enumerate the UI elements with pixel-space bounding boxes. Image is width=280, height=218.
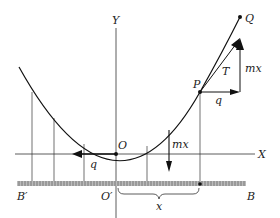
origin-label: O <box>118 139 127 152</box>
B-label: B <box>246 190 255 203</box>
point-on-bar <box>198 182 202 186</box>
Q-label: Q <box>245 12 254 25</box>
catenary-diagram: Y X O q mx P q mx T Q B′ O′ B x <box>0 0 280 218</box>
T-label: T <box>222 65 231 78</box>
tension-line <box>200 44 236 92</box>
q-top-label: q <box>215 94 222 107</box>
mx-top-label: mx <box>245 62 262 75</box>
point-Q <box>238 15 242 19</box>
q-bottom-label: q <box>90 158 97 171</box>
x-distance-label: x <box>156 200 163 213</box>
O-prime-label: O′ <box>101 190 113 203</box>
B-prime-label: B′ <box>16 190 28 203</box>
P-label: P <box>192 78 201 91</box>
y-axis-label: Y <box>112 14 121 27</box>
q-arrow-head <box>72 150 82 158</box>
q-top-arrow-head <box>230 89 240 95</box>
x-axis-label: X <box>257 148 267 161</box>
x-brace <box>118 188 199 199</box>
deck-bar <box>17 181 246 186</box>
mx-down-arrow-head <box>166 161 172 172</box>
cable-curve <box>19 17 240 161</box>
mx-bottom-label: mx <box>172 138 189 151</box>
